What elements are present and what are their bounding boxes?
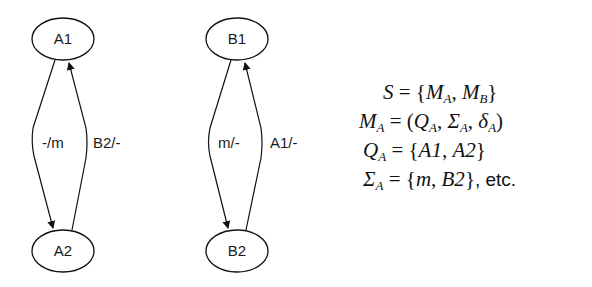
formula-separator: , xyxy=(442,138,453,162)
formula-symbol: A1 xyxy=(419,138,442,162)
formula-symbol: Q xyxy=(414,109,429,133)
formula-symbol: A2 xyxy=(452,138,475,162)
formula-separator: , xyxy=(451,80,462,104)
formula-symbol: B2 xyxy=(442,167,465,191)
formula-separator: , xyxy=(437,109,448,133)
state-b2-label: B2 xyxy=(228,242,246,259)
formula-symbol: M xyxy=(462,80,480,104)
formula-operator: = { xyxy=(383,167,415,191)
formula-bracket: } xyxy=(465,167,475,191)
formula-bracket: } xyxy=(487,80,497,104)
formula-subscript: A xyxy=(488,120,496,135)
formula-separator: , xyxy=(431,167,442,191)
state-machine-diagram: A1 A2 -/m B2/- B1 B2 m/- A1/- xyxy=(0,0,592,287)
formula-symbol: δ xyxy=(478,109,488,133)
formula-states-a: QA = {A1, A2} xyxy=(363,138,486,163)
formula-operator: = { xyxy=(386,138,418,162)
transition-label-a1-a2: -/m xyxy=(42,134,64,151)
formula-symbol: m xyxy=(416,167,431,191)
formula-etc-text: , etc. xyxy=(475,169,516,190)
state-a2-label: A2 xyxy=(54,242,72,259)
transition-label-b2-b1: A1/- xyxy=(270,134,298,151)
formula-subscript: A xyxy=(378,149,386,164)
formula-subscript: A xyxy=(429,120,437,135)
formula-symbol: Σ xyxy=(363,167,375,191)
machine-b: B1 B2 m/- A1/- xyxy=(206,18,298,272)
formula-operator: = { xyxy=(394,80,426,104)
state-b1-label: B1 xyxy=(228,30,246,47)
formula-subscript: A xyxy=(460,120,468,135)
transition-b2-to-b1 xyxy=(245,63,262,230)
transition-label-a2-a1: B2/- xyxy=(93,134,121,151)
formula-symbol: M xyxy=(426,80,444,104)
formula-bracket: } xyxy=(476,138,486,162)
formula-symbol: Σ xyxy=(447,109,459,133)
formula-separator: , xyxy=(468,109,479,133)
machine-a: A1 A2 -/m B2/- xyxy=(32,18,121,272)
transition-label-b1-b2: m/- xyxy=(218,134,240,151)
formula-symbol: S xyxy=(383,80,394,104)
transition-a2-to-a1 xyxy=(69,63,87,230)
formula-machine-a: MA = (QA, ΣA, δA) xyxy=(359,109,503,134)
formula-symbol: Q xyxy=(363,138,378,162)
formula-system: S = {MA, MB} xyxy=(383,80,497,105)
formula-symbol: M xyxy=(359,109,377,133)
formula-bracket: ) xyxy=(496,109,503,133)
formula-operator: = ( xyxy=(384,109,413,133)
state-a1-label: A1 xyxy=(54,30,72,47)
formula-alphabet-a: ΣA = {m, B2}, etc. xyxy=(363,167,516,192)
